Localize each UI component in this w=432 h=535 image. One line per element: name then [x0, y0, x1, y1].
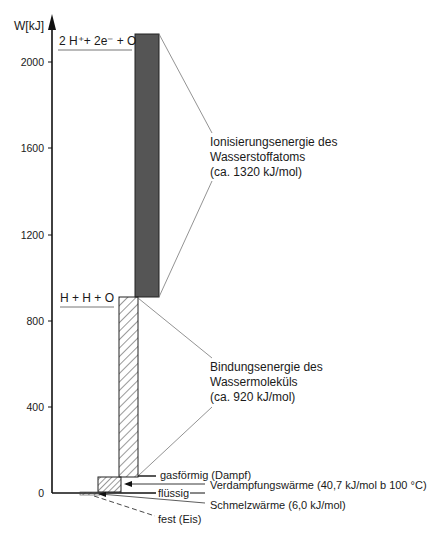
level-top-label: 2 H⁺+ 2e⁻ + O [59, 35, 136, 48]
vaporization-box [98, 477, 121, 492]
y-axis-arrow-icon [48, 14, 56, 30]
binding-bar [119, 297, 138, 477]
binding-annotation: Bindungsenergie des Wassermoleküls (ca. … [210, 360, 323, 405]
melting-strip [80, 492, 100, 495]
tick-400: 400 [10, 401, 44, 413]
tick-800: 800 [10, 315, 44, 327]
tick-1200: 1200 [10, 229, 44, 241]
ionization-annotation: Ionisierungsenergie des Wasserstoffatoms… [210, 135, 337, 180]
solid-label: fest (Eis) [158, 513, 201, 526]
vaporization-label: Verdampfungswärme (40,7 kJ/mol b 100 °C) [210, 479, 427, 492]
tick-2000: 2000 [10, 56, 44, 68]
ionization-bar [135, 34, 159, 297]
level-middle-label: H + H + O [60, 292, 114, 305]
energy-diagram [0, 0, 432, 535]
tick-0: 0 [10, 487, 44, 499]
melting-label: Schmelzwärme (6,0 kJ/mol) [210, 499, 346, 512]
liquid-label: flüssig [158, 487, 189, 500]
y-axis-label: W[kJ] [14, 20, 44, 33]
tick-1600: 1600 [10, 142, 44, 154]
